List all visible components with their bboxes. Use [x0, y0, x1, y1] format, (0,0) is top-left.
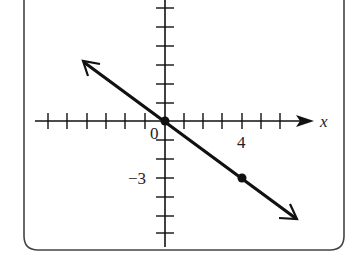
- point-origin: [161, 117, 170, 126]
- x-tick-label-4: 4: [237, 133, 246, 152]
- graph-line: [83, 61, 297, 219]
- point-4-neg3: [238, 174, 247, 183]
- y-tick-label-neg3: −3: [128, 169, 146, 188]
- x-axis-label: x: [319, 112, 328, 131]
- origin-label: 0: [150, 124, 159, 143]
- coordinate-plane: 0 4 −3 x: [0, 0, 354, 260]
- x-axis: [35, 113, 314, 129]
